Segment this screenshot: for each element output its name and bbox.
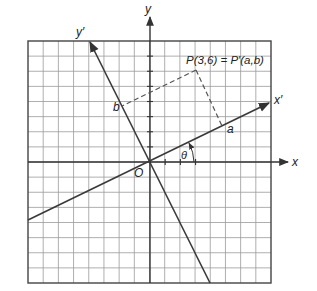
point-label: P(3,6) = P′(a,b) <box>186 54 264 66</box>
a-label: a <box>227 122 234 136</box>
origin-label: O <box>134 166 143 180</box>
x-axis-label: x <box>291 155 299 169</box>
theta-label: θ <box>181 149 187 161</box>
rotation-diagram: y x x′ y′ O P(3,6) = P′(a,b) b a θ <box>0 0 317 291</box>
axis-ticks <box>147 56 196 165</box>
y-prime-axis-label: y′ <box>75 25 85 39</box>
projection-to-a <box>196 70 222 126</box>
x-prime-axis-label: x′ <box>273 93 283 107</box>
y-axis-label: y <box>144 2 152 16</box>
projection-to-b <box>122 70 196 106</box>
b-label: b <box>113 100 120 114</box>
angle-arc <box>189 143 194 162</box>
